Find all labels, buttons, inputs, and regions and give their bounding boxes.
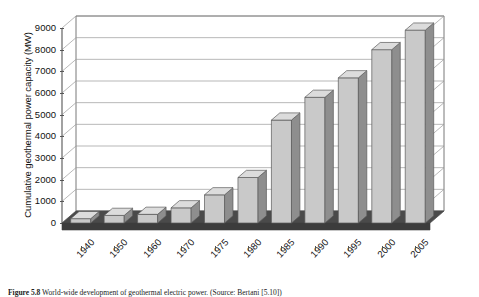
x-tick-label: 1985 — [274, 237, 296, 260]
x-tick-mark — [382, 246, 383, 250]
x-tick-label: 1970 — [174, 237, 196, 260]
figure-number: Figure 5.8 — [8, 288, 40, 297]
x-tick-label: 1980 — [241, 237, 263, 260]
x-tick-mark — [81, 246, 82, 250]
x-tick-label: 1975 — [208, 237, 230, 260]
x-tick-label: 1990 — [308, 237, 330, 260]
x-tick-label: 2000 — [375, 237, 397, 260]
figure-caption-text: World-wide development of geothermal ele… — [42, 288, 282, 297]
x-tick-label: 2005 — [408, 237, 430, 260]
x-tick-mark — [281, 246, 282, 250]
x-tick-label: 1960 — [141, 237, 163, 260]
x-tick-mark — [148, 246, 149, 250]
x-tick-mark — [248, 246, 249, 250]
x-tick-mark — [348, 246, 349, 250]
x-tick-mark — [114, 246, 115, 250]
figure-caption: Figure 5.8 World-wide development of geo… — [8, 288, 478, 297]
x-tick-label: 1950 — [107, 237, 129, 260]
x-tick-mark — [215, 246, 216, 250]
x-tick-label: 1995 — [341, 237, 363, 260]
x-tick-mark — [181, 246, 182, 250]
x-tick-mark — [415, 246, 416, 250]
x-tick-label: 1940 — [74, 237, 96, 260]
x-tick-mark — [315, 246, 316, 250]
